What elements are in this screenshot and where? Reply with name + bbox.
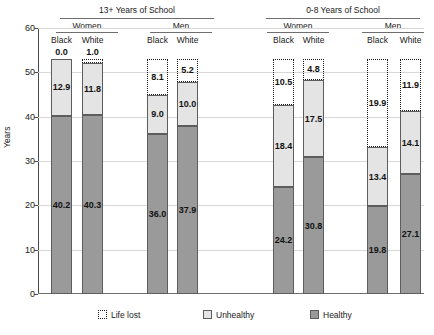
healthy-swatch-icon [310, 310, 319, 319]
legend-label-life-lost: Life lost [111, 310, 140, 320]
value-label-life-lost-4: 10.5 [273, 77, 294, 87]
value-label-healthy-6: 19.8 [367, 245, 388, 255]
legend-item-unhealthy[interactable]: Unhealthy [203, 310, 254, 320]
life-lost-swatch-icon [98, 310, 107, 319]
legend-label-unhealthy: Unhealthy [216, 310, 254, 320]
bar-0-8-Men-White[interactable] [400, 59, 421, 294]
value-label-healthy-3: 37.9 [177, 205, 198, 215]
bar-13+-Women-Black[interactable] [51, 59, 72, 294]
value-label-unhealthy-0: 12.9 [51, 82, 72, 92]
gridline-60 [38, 28, 424, 29]
y-axis-label: Years [2, 127, 12, 148]
value-label-life-lost-2: 8.1 [147, 72, 168, 82]
bar-13+-Men-White[interactable] [177, 59, 198, 294]
value-label-unhealthy-4: 18.4 [273, 141, 294, 151]
bar-0-8-Women-Black[interactable] [273, 59, 294, 294]
y-tick-mark-60 [34, 28, 38, 29]
legend: Life lost Unhealthy Healthy [38, 310, 424, 326]
value-label-life-lost-3: 5.2 [177, 65, 198, 75]
value-label-healthy-5: 30.8 [303, 221, 324, 231]
value-label-healthy-7: 27.1 [400, 229, 421, 239]
value-label-unhealthy-3: 10.0 [177, 99, 198, 109]
y-tick-mark-50 [34, 72, 38, 73]
y-tick-mark-40 [34, 117, 38, 118]
legend-item-life-lost[interactable]: Life lost [98, 310, 140, 320]
value-label-life-lost-5: 4.8 [303, 64, 324, 74]
value-label-unhealthy-6: 13.4 [367, 172, 388, 182]
value-label-healthy-0: 40.2 [51, 200, 72, 210]
bar-13+-Men-Black[interactable] [147, 59, 168, 294]
value-label-unhealthy-2: 9.0 [147, 109, 168, 119]
bar-0-8-Women-White[interactable] [303, 59, 324, 294]
value-label-life-lost-7: 11.9 [400, 80, 421, 90]
value-label-life-lost-6: 19.9 [367, 98, 388, 108]
value-label-unhealthy-5: 17.5 [303, 114, 324, 124]
chart-root: 13+ Years of School 0-8 Years of School … [0, 0, 434, 335]
value-label-healthy-1: 40.3 [82, 200, 103, 210]
value-label-unhealthy-7: 14.1 [400, 138, 421, 148]
legend-label-healthy: Healthy [323, 310, 352, 320]
group-header-right: 0-8 Years of School [268, 5, 418, 15]
legend-item-healthy[interactable]: Healthy [310, 310, 352, 320]
group-header-left: 13+ Years of School [62, 5, 212, 15]
y-tick-mark-30 [34, 161, 38, 162]
y-tick-mark-20 [34, 205, 38, 206]
group-header-left-rule [60, 18, 214, 19]
value-label-healthy-2: 36.0 [147, 209, 168, 219]
plot-area: 0102030405060 40.212.940.311.836.09.08.1… [38, 28, 424, 294]
segment-life-lost [82, 59, 103, 63]
value-label-healthy-4: 24.2 [273, 235, 294, 245]
value-label-unhealthy-1: 11.8 [82, 84, 103, 94]
unhealthy-swatch-icon [203, 310, 212, 319]
y-tick-mark-0 [34, 294, 38, 295]
y-tick-mark-10 [34, 250, 38, 251]
group-header-right-rule [266, 18, 420, 19]
